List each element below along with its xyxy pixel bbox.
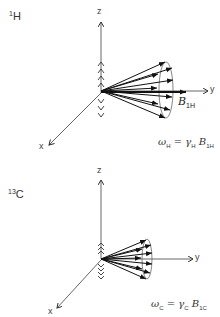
field-subscript: 1H bbox=[186, 102, 195, 109]
nucleus-label-13c: 13C bbox=[8, 188, 24, 200]
y-axis-label: y bbox=[195, 252, 200, 262]
b1-field-label-1h: B1H bbox=[178, 95, 195, 109]
equals-sign: = bbox=[171, 136, 186, 147]
spin-down-arrows bbox=[98, 264, 104, 279]
z-axis-label: z bbox=[97, 165, 102, 175]
omega-symbol: ω bbox=[158, 136, 166, 147]
nucleus-label-1h: 1H bbox=[9, 10, 21, 22]
field-symbol: B bbox=[178, 95, 186, 108]
mass-number: 13 bbox=[8, 188, 16, 195]
magnetization-vectors-13c bbox=[101, 240, 152, 279]
omega-symbol: ω bbox=[151, 298, 159, 309]
precession-diagram-13c bbox=[0, 158, 220, 317]
larmor-equation-13c: ωC = γC B1C bbox=[151, 298, 207, 311]
y-axis-label: y bbox=[210, 84, 215, 94]
equals-sign: = bbox=[164, 298, 179, 309]
z-axis-label: z bbox=[97, 6, 102, 16]
element-symbol: H bbox=[13, 10, 21, 22]
b-subscript: 1C bbox=[199, 305, 207, 311]
b-subscript: 1H bbox=[206, 143, 214, 149]
x-axis bbox=[49, 93, 101, 145]
panel-13c: 13C z y x ωC = γC B1C bbox=[0, 158, 220, 317]
element-symbol: C bbox=[16, 188, 24, 200]
x-axis-label: x bbox=[39, 141, 44, 151]
precession-diagram-1h bbox=[0, 0, 220, 158]
spin-down-arrows bbox=[98, 99, 104, 117]
gamma-subscript: C bbox=[184, 305, 188, 311]
magnetization-vectors-1h bbox=[101, 62, 173, 118]
gamma-subscript: H bbox=[191, 143, 195, 149]
larmor-equation-1h: ωH = γH B1H bbox=[158, 136, 214, 149]
x-axis bbox=[57, 260, 101, 308]
panel-1h: 1H z y x B1H ωH = γH B1H bbox=[0, 0, 220, 158]
x-axis-label: x bbox=[48, 306, 53, 316]
